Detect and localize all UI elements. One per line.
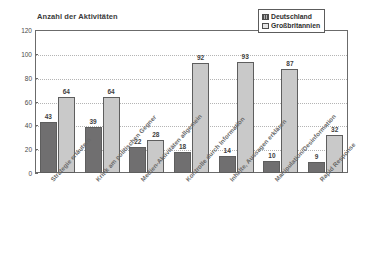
y-tick-mark [35, 125, 38, 126]
y-tick-label: 60 [6, 98, 32, 105]
y-tick-label: 120 [6, 27, 32, 34]
bar-value-label: 39 [89, 118, 96, 125]
legend-item-grossbritannien: Großbritannien [262, 21, 320, 30]
bar-value-label: 64 [63, 88, 70, 95]
y-tick-mark [35, 78, 38, 79]
y-tick-label: 20 [6, 146, 32, 153]
bar [129, 147, 146, 173]
chart-title: Anzahl der Aktivitäten [37, 12, 118, 21]
bar-value-label: 87 [286, 60, 293, 67]
y-tick-mark [35, 30, 38, 31]
y-tick-label: 80 [6, 74, 32, 81]
bar [40, 122, 57, 173]
bar-value-label: 93 [242, 53, 249, 60]
bar [174, 152, 191, 173]
y-tick-label: 100 [6, 50, 32, 57]
y-tick-mark [35, 173, 38, 174]
y-tick-mark [35, 102, 38, 103]
bar-value-label: 28 [152, 131, 159, 138]
legend-label-grossbritannien: Großbritannien [271, 21, 320, 30]
bar-value-label: 64 [107, 88, 114, 95]
bar-value-label: 32 [331, 126, 338, 133]
bar-value-label: 92 [197, 54, 204, 61]
y-tick-mark [35, 54, 38, 55]
bar-value-label: 10 [268, 152, 275, 159]
y-tick-mark [35, 149, 38, 150]
legend-swatch-icon-grossbritannien [262, 23, 269, 29]
legend-swatch-icon-deutschland [262, 14, 269, 20]
bar-value-label: 9 [315, 153, 319, 160]
bar [85, 127, 102, 173]
bar-value-label: 18 [179, 143, 186, 150]
gridline [36, 55, 347, 56]
y-tick-label: 40 [6, 122, 32, 129]
legend-label-deutschland: Deutschland [271, 12, 312, 21]
legend-item-deutschland: Deutschland [262, 12, 320, 21]
y-tick-label: 0 [6, 170, 32, 177]
bar-value-label: 14 [224, 147, 231, 154]
chart-screenshot: Anzahl der Aktivitäten 020406080100120 4… [0, 0, 379, 269]
bar-value-label: 43 [45, 113, 52, 120]
y-axis: 020406080100120 [4, 30, 32, 173]
chart-legend: Deutschland Großbritannien [258, 9, 325, 33]
